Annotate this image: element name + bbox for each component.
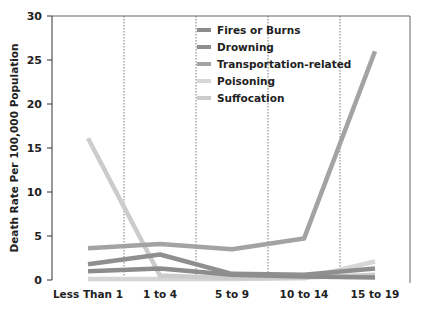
x-tick-label: 1 to 4: [143, 288, 177, 300]
y-tick-label: 15: [27, 142, 42, 155]
legend-label: Poisoning: [217, 75, 275, 87]
legend-label: Transportation-related: [217, 58, 351, 70]
legend-label: Drowning: [217, 41, 274, 53]
x-tick-label: 15 to 19: [351, 288, 400, 300]
y-axis-label: Death Rate Per 100,000 Population: [8, 43, 20, 252]
legend-label: Suffocation: [217, 92, 284, 104]
x-tick-label: Less Than 1: [53, 288, 123, 300]
y-tick-label: 20: [27, 98, 43, 111]
y-tick-label: 5: [34, 230, 42, 243]
line-chart: 051015202530Death Rate Per 100,000 Popul…: [0, 0, 423, 311]
x-tick-label: 5 to 9: [215, 288, 249, 300]
x-tick-label: 10 to 14: [280, 288, 329, 300]
legend-label: Fires or Burns: [217, 24, 300, 36]
y-tick-label: 25: [27, 54, 42, 67]
chart-root: 051015202530Death Rate Per 100,000 Popul…: [0, 0, 423, 311]
y-tick-label: 30: [27, 10, 43, 23]
y-tick-label: 0: [34, 274, 42, 287]
y-tick-label: 10: [27, 186, 43, 199]
